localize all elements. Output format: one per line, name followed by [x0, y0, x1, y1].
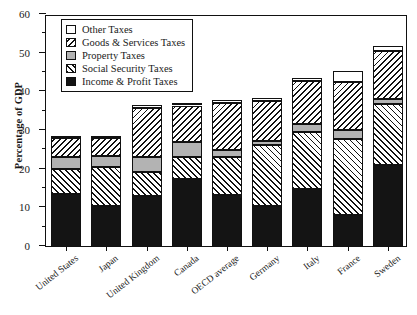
bar-segment-social-security-taxes [132, 172, 162, 196]
tax-revenue-stacked-bar-chart: Percentage of GDP 0102030405060 United S… [0, 0, 417, 315]
bar-segment-income-profit-taxes [212, 195, 242, 247]
y-tick-label: 20 [19, 163, 30, 175]
y-tick-minor [42, 187, 46, 188]
legend-label: Social Security Taxes [82, 63, 173, 74]
legend-item[interactable]: Goods & Services Taxes [66, 36, 185, 49]
x-tick [388, 246, 389, 251]
x-tick [348, 246, 349, 251]
x-tick [106, 246, 107, 251]
bar-oecd-average[interactable] [212, 100, 242, 246]
y-tick-minor [42, 110, 46, 111]
bar-france[interactable] [333, 70, 363, 246]
bar-segment-social-security-taxes [333, 139, 363, 215]
x-tick [307, 246, 308, 251]
y-tick-major: 60 [39, 13, 46, 14]
bar-segment-goods-services-taxes [252, 101, 282, 141]
bar-segment-income-profit-taxes [91, 206, 121, 247]
bar-segment-property-taxes [373, 99, 403, 105]
bar-segment-property-taxes [91, 156, 121, 167]
bar-segment-property-taxes [172, 142, 202, 157]
legend-swatch-icon [66, 64, 76, 73]
legend-item[interactable]: Property Taxes [66, 49, 185, 62]
bar-segment-income-profit-taxes [252, 206, 282, 247]
bar-segment-goods-services-taxes [212, 103, 242, 150]
chart-legend: Other TaxesGoods & Services TaxesPropert… [61, 19, 193, 92]
bar-sweden[interactable] [373, 45, 403, 246]
bar-japan[interactable] [91, 136, 121, 246]
y-tick-label: 10 [19, 201, 30, 213]
bar-segment-goods-services-taxes [51, 138, 81, 157]
bar-segment-other-taxes [91, 136, 121, 138]
x-tick [227, 246, 228, 251]
bar-segment-other-taxes [132, 105, 162, 107]
x-axis-label: Japan [97, 253, 120, 274]
y-tick-label: 0 [25, 240, 31, 252]
bar-segment-goods-services-taxes [172, 106, 202, 143]
bar-segment-goods-services-taxes [373, 51, 403, 98]
bar-segment-property-taxes [333, 130, 363, 139]
bar-united-kingdom[interactable] [132, 106, 162, 246]
x-tick [187, 246, 188, 251]
x-tick [147, 246, 148, 251]
bar-segment-goods-services-taxes [333, 82, 363, 130]
bar-segment-property-taxes [252, 141, 282, 145]
legend-swatch-icon [66, 38, 76, 47]
y-tick-label: 30 [19, 124, 30, 136]
bar-segment-property-taxes [51, 157, 81, 169]
bar-segment-social-security-taxes [373, 104, 403, 165]
bar-segment-other-taxes [292, 78, 322, 80]
y-tick-major: 0 [39, 245, 46, 246]
legend-item[interactable]: Income & Profit Taxes [66, 75, 185, 88]
bar-segment-social-security-taxes [51, 169, 81, 194]
bar-segment-income-profit-taxes [333, 215, 363, 247]
y-tick-major: 20 [39, 168, 46, 169]
bar-segment-income-profit-taxes [51, 194, 81, 247]
x-axis-label: Germany [248, 253, 282, 283]
y-tick-label: 40 [19, 85, 30, 97]
bar-segment-property-taxes [212, 150, 242, 157]
x-axis-label: France [335, 253, 362, 277]
legend-swatch-icon [66, 77, 76, 86]
legend-swatch-icon [66, 25, 76, 34]
bar-segment-other-taxes [333, 71, 363, 82]
y-tick-minor [42, 71, 46, 72]
legend-label: Goods & Services Taxes [82, 37, 185, 48]
x-axis-label: Canada [172, 253, 201, 278]
bar-segment-income-profit-taxes [292, 189, 322, 247]
bar-segment-income-profit-taxes [172, 179, 202, 247]
x-axis-label: Sweden [372, 253, 402, 279]
bar-segment-property-taxes [292, 124, 322, 132]
bar-segment-property-taxes [132, 157, 162, 172]
legend-swatch-icon [66, 51, 76, 60]
bar-segment-social-security-taxes [172, 157, 202, 179]
bar-segment-social-security-taxes [212, 157, 242, 195]
bar-segment-other-taxes [172, 103, 202, 105]
x-axis-label: United States [34, 253, 80, 292]
legend-label: Income & Profit Taxes [82, 76, 178, 87]
y-tick-minor [42, 32, 46, 33]
legend-item[interactable]: Other Taxes [66, 23, 185, 36]
y-tick-major: 10 [39, 206, 46, 207]
y-tick-minor [42, 148, 46, 149]
bar-segment-income-profit-taxes [373, 165, 403, 247]
bar-italy[interactable] [292, 79, 322, 246]
y-tick-major: 30 [39, 129, 46, 130]
y-tick-label: 50 [19, 47, 30, 59]
bar-segment-social-security-taxes [292, 132, 322, 189]
bar-segment-other-taxes [373, 46, 403, 51]
bar-canada[interactable] [172, 103, 202, 246]
bar-segment-goods-services-taxes [132, 108, 162, 157]
bar-united-states[interactable] [51, 136, 81, 246]
bar-segment-other-taxes [212, 100, 242, 102]
legend-item[interactable]: Social Security Taxes [66, 62, 185, 75]
y-tick-major: 40 [39, 90, 46, 91]
x-axis-label: Italy [302, 253, 322, 272]
y-tick-minor [42, 226, 46, 227]
y-tick-major: 50 [39, 52, 46, 53]
bar-segment-other-taxes [252, 98, 282, 100]
x-tick [267, 246, 268, 251]
x-tick [66, 246, 67, 251]
y-tick-label: 60 [19, 8, 30, 20]
legend-label: Other Taxes [82, 24, 133, 35]
bar-germany[interactable] [252, 99, 282, 246]
